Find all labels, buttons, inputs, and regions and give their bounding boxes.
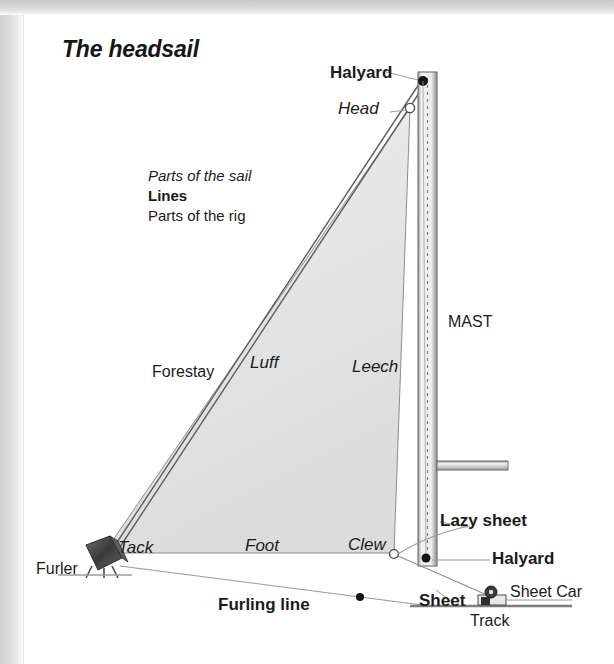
label-tack: Tack [118, 539, 153, 556]
label-sheet-car: Sheet Car [510, 584, 582, 600]
label-furler: Furler [36, 561, 78, 577]
label-halyard-top: Halyard [330, 64, 392, 81]
label-lazy-sheet: Lazy sheet [440, 512, 527, 529]
boom [437, 461, 508, 470]
label-halyard-bottom: Halyard [492, 550, 554, 567]
label-clew: Clew [348, 536, 386, 553]
mast [418, 72, 437, 566]
mast-base-halyard-point [422, 554, 431, 563]
label-sheet: Sheet [419, 592, 465, 609]
sheet-car [478, 586, 506, 605]
sheet-line [398, 556, 487, 595]
legend-key: Parts of the sail Lines Parts of the rig [148, 166, 251, 226]
label-luff: Luff [250, 354, 278, 371]
page-title: The headsail [62, 36, 199, 63]
legend-rig-parts: Parts of the rig [148, 206, 251, 226]
label-mast: MAST [448, 314, 492, 330]
diagram-page: The headsail Parts of the sail Lines Par… [0, 0, 614, 664]
legend-sail-parts: Parts of the sail [148, 166, 251, 186]
label-foot: Foot [245, 537, 279, 554]
label-head: Head [338, 100, 379, 117]
head-cringle-ring [405, 103, 414, 112]
legend-lines: Lines [148, 186, 251, 206]
clew-cringle-ring [390, 550, 399, 559]
label-track: Track [470, 613, 509, 629]
label-forestay: Forestay [152, 364, 214, 380]
label-furling-line: Furling line [218, 596, 310, 613]
leader-head [390, 110, 406, 112]
label-leech: Leech [352, 358, 398, 375]
